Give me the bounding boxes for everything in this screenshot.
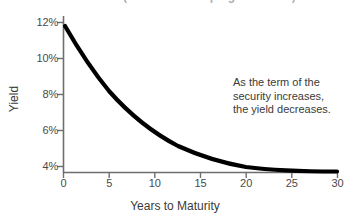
y-tick-label-12: 12% xyxy=(24,16,58,28)
x-axis-title: Years to Maturity xyxy=(0,199,350,213)
chart-annotation-line-1: As the term of the xyxy=(233,76,348,90)
x-tick-label-10: 10 xyxy=(142,177,168,189)
x-tick-label-0: 0 xyxy=(51,177,77,189)
plot-area: 12% 10% 8% 6% 4% 0 5 10 15 20 25 30 Yiel… xyxy=(0,0,350,224)
x-tick-label-25: 25 xyxy=(279,177,305,189)
chart-figure: Yield Curve (Downward Sloping / Inverted… xyxy=(0,0,350,224)
y-tick-label-10: 10% xyxy=(24,52,58,64)
y-tick-label-8: 8% xyxy=(24,88,58,100)
x-tick-label-30: 30 xyxy=(325,177,350,189)
chart-annotation: As the term of the security increases, t… xyxy=(233,76,348,117)
y-tick-label-4: 4% xyxy=(24,160,58,172)
x-tick-label-5: 5 xyxy=(96,177,122,189)
x-tick-label-20: 20 xyxy=(233,177,259,189)
x-tick-label-15: 15 xyxy=(188,177,214,189)
y-tick-label-6: 6% xyxy=(24,124,58,136)
chart-annotation-line-3: the yield decreases. xyxy=(233,103,348,117)
chart-annotation-line-2: security increases, xyxy=(233,90,348,104)
y-axis-title: Yield xyxy=(7,71,21,127)
